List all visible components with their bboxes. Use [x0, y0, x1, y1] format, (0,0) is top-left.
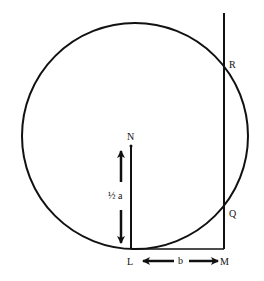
label-n: N — [127, 131, 134, 142]
label-l: L — [127, 256, 133, 267]
label-b: b — [178, 255, 183, 266]
label-r: R — [229, 59, 236, 70]
label-m: M — [220, 256, 229, 267]
point-n-dot — [130, 145, 133, 148]
geometry-diagram: N L M Q R ½ a b — [0, 0, 264, 281]
label-q: Q — [229, 208, 237, 219]
label-half-a: ½ a — [108, 190, 123, 201]
circle — [22, 23, 248, 249]
